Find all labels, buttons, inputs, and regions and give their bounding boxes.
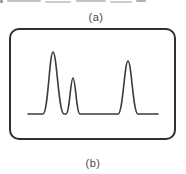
figure-canvas: (a) (b) [0, 0, 186, 174]
trace-plot [0, 0, 186, 174]
chromatogram-trace [28, 52, 158, 114]
sublabel-b: (b) [0, 157, 186, 169]
